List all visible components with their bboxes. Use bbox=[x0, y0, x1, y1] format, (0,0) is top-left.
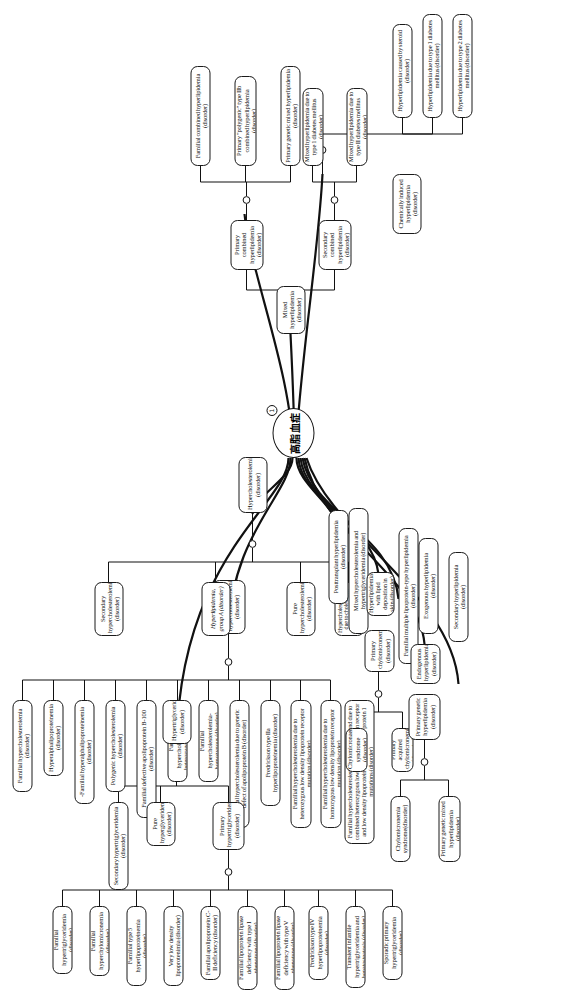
node-fredrickson-type-4[interactable]: Fredrickson type IV hyperlipoproteinemia… bbox=[308, 906, 328, 980]
node-secondary-hypertriglyceridemia[interactable]: Secondary hypertriglyceridemia (disorder… bbox=[108, 802, 128, 890]
node-primary-genetic-mixed-hyperlipidemia-2[interactable]: Primary genetic mixed hyperlipidemia (di… bbox=[438, 796, 460, 862]
node-familial-hypercholesterolemia-combined-mutations[interactable]: Familial hypercholesterolemia co-occurre… bbox=[344, 700, 374, 844]
node-primary-hypertriglyceridemia[interactable]: Primary hypertriglyceridemia (disorder) bbox=[212, 802, 244, 850]
node-familial-defective-apob100[interactable]: Familial defective apolipoprotein B-100 … bbox=[136, 700, 156, 818]
node-familial-hypercholesterolemia[interactable]: Familial hypercholesterolemia (disorder) bbox=[12, 700, 32, 792]
node-mixed-hyperlipidemia[interactable]: Mixed hyperlipidemia (disorder) bbox=[276, 286, 305, 334]
node-posttransplant-hyperlipidemia[interactable]: Posttransplant hyperlipidemia (disorder) bbox=[328, 510, 348, 604]
node-chylomicronemia-syndrome[interactable]: Chylomicronemia syndrome(disorder) bbox=[390, 796, 410, 862]
node-secondary-hypercholesterolemia[interactable]: Secondary hypercholesterolemia (disorder… bbox=[94, 582, 123, 636]
node-primary-genetic-hyperlipidemia[interactable]: Primary genetic hyperlipidemia (disorder… bbox=[408, 694, 440, 740]
node-mixed-hyperlipidemia-type2-diabetes[interactable]: Mixed hyperlipidemia due to type II diab… bbox=[346, 88, 367, 166]
node-familial-hyperalphalipoproteinemia[interactable]: -Familial hyperalphalipoproteinemia (dis… bbox=[74, 700, 94, 804]
node-mixed-hyperlipidemia-type1-diabetes[interactable]: Mixed hyperlipidemia due to type 1 diabe… bbox=[302, 88, 323, 166]
root-node[interactable]: 高脂血症 bbox=[272, 408, 314, 458]
node-sporadic-primary-hypertriglyceridemia[interactable]: Sporadic primary hypertriglyceridemia (d… bbox=[382, 906, 402, 980]
edges-chemically-induced bbox=[319, 118, 462, 174]
node-familial-hypercholesterolemia-homozygous-ldlr[interactable]: Familial hypercholesterolemia due to hom… bbox=[320, 700, 341, 828]
node-familial-hyperchylomicronemia[interactable]: Familial hyperchylomicronemia (disorder) bbox=[89, 906, 109, 976]
node-familial-apolipoprotein-c2-deficiency[interactable]: Familial apolipoprotein C-II deficiency … bbox=[200, 906, 220, 980]
node-hypertriglyceridemia[interactable]: Hypertriglyceridemia (disorder) bbox=[162, 700, 191, 744]
node-familial-type-5-hyperlipoproteinemia[interactable]: Familial type 5 hyperlipoproteinemia (di… bbox=[126, 906, 146, 986]
node-primary-combined-hyperlipidemia[interactable]: Primary combined hyperlipidemia (disorde… bbox=[230, 220, 263, 270]
node-secondary-hyperlipidemia[interactable]: Secondary hyperlipidemia (disorder) bbox=[448, 552, 468, 642]
node-transient-infantile-hypertriglyceridemia[interactable]: Transient infantile hypertriglyceridemia… bbox=[345, 906, 365, 988]
node-hyperlipidemia-type1-diabetes[interactable]: Hyperlipidemia due to type 1 diabetes me… bbox=[422, 14, 442, 118]
node-hyperlipidemia-with-lipid-deposition-in-skin[interactable]: Hyperlipidemia with lipid deposition in … bbox=[366, 572, 394, 616]
node-familial-hypercholesterolemia-heterozygous-ldlr[interactable]: Familial hypercholesterolemia due to het… bbox=[290, 700, 311, 828]
node-secondary-combined-hyperlipidemia[interactable]: Secondary combined hyperlipidemia (disor… bbox=[318, 220, 351, 270]
node-familial-lpl-deficiency-type1[interactable]: Familial lipoprotein lipase deficiency w… bbox=[237, 906, 257, 990]
node-hyperlipidemia-group-a[interactable]: Hyperlipidemia, group A (disorder) bbox=[201, 582, 230, 636]
root-badge: 1 bbox=[266, 405, 277, 416]
node-very-low-density-lipoprotenimia[interactable]: Very low density lipoprotenimia (disorde… bbox=[163, 906, 183, 986]
node-chemically-induced-hyperlipidemia[interactable]: Chemically induced hyperlipidemia (disor… bbox=[392, 174, 421, 234]
node-hypercholesterolemia[interactable]: Hypercholesterolemia (disorder) bbox=[238, 457, 267, 513]
node-chylomicronaemia-syndrome[interactable]: Chylomicronaemia syndrome (disorder) bbox=[345, 728, 367, 772]
node-fredrickson-type-2a[interactable]: Fredrickson type IIa hyperlipoproteinemi… bbox=[260, 700, 280, 806]
node-endogenous-hyperlipidemia[interactable]: Endogenous hyperlipidemia (disorder) bbox=[410, 644, 440, 684]
node-primary-polygenic-type-2b[interactable]: Primary "polygenic" type IIb combined hy… bbox=[234, 76, 256, 166]
node-familial-hypertriglyceridemia[interactable]: Familial hypertriglyceridemia (disorder) bbox=[52, 906, 72, 974]
node-primary-genetic-mixed-hyperlipidemia[interactable]: Primary genetic mixed hyperlipidemia (di… bbox=[280, 66, 300, 166]
node-exogenous-hyperlipidemia[interactable]: Exogenous hyperlipidemia (disorder) bbox=[418, 538, 438, 634]
node-familial-lpl-deficiency-type5[interactable]: Familial lipoprotein lipase deficiency w… bbox=[274, 906, 294, 990]
node-familial-combined-hyperlipidemia[interactable]: Familial combined hyperlipidemia (disord… bbox=[190, 66, 210, 166]
node-pure-hypercholesterolemia[interactable]: Pure hypercholesterolemia (disorder) bbox=[286, 582, 315, 636]
node-familial-hypercholesterolemia-homozygous[interactable]: Familial hypercholesterolemia-homozygous… bbox=[198, 700, 218, 782]
node-hyperlipidemia-caused-by-steroid[interactable]: Hyperlipidemia caused by steroid (disord… bbox=[392, 24, 412, 118]
node-polygenic-hypercholesterolemia[interactable]: Polygenic hypercholesterolemia (disorder… bbox=[105, 700, 125, 792]
node-mixed-hypercholesterolemia-and-hypertriglyceridemia[interactable]: Mixed hypercholesterolemia and hypertrig… bbox=[348, 508, 368, 634]
node-pure-hyperglyceridemia[interactable]: Pure hyperglyceridemia (disorder) bbox=[146, 802, 175, 846]
node-hyperalphalipoproteinemia[interactable]: Hyperalphalipoproteinemia (disorder) bbox=[43, 700, 63, 776]
node-hyperlipidemia-type2-diabetes[interactable]: Hyperlipidemia due to type 2 diabetes me… bbox=[452, 14, 472, 118]
node-primary-chylomicronemia[interactable]: Primary chylomicronemia (disorder) bbox=[364, 630, 394, 672]
